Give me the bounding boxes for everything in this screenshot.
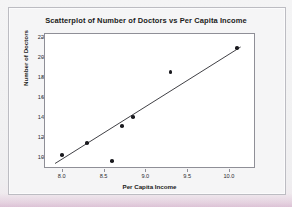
x-tick-label: 8.5 [93,173,115,179]
x-tick-mark [104,169,105,172]
data-point [120,124,124,128]
x-tick-label: 9.0 [134,173,156,179]
data-point [131,115,135,119]
data-point [110,159,114,163]
regression-line-svg [45,34,254,167]
x-tick-label: 10.0 [218,173,240,179]
x-axis-ticks: 8.08.59.09.510.0 [44,169,255,181]
x-tick-mark [229,169,230,172]
x-tick-mark [145,169,146,172]
y-axis-ticks: 10121416182022 [24,33,44,168]
data-point [60,153,64,157]
plot-inner [45,34,254,167]
x-tick-mark [62,169,63,172]
x-tick-label: 8.0 [51,173,73,179]
plot-area [44,33,255,168]
data-point [169,70,173,74]
paper-bottom-tint [0,193,292,207]
chart-title: Scatterplot of Number of Doctors vs Per … [8,16,284,25]
x-axis-title: Per Capita Income [44,183,255,190]
data-point [85,141,89,145]
regression-line [55,47,241,164]
scatterplot-screenshot: Scatterplot of Number of Doctors vs Per … [0,0,292,207]
x-tick-label: 9.5 [176,173,198,179]
x-tick-mark [187,169,188,172]
data-point [235,46,239,50]
